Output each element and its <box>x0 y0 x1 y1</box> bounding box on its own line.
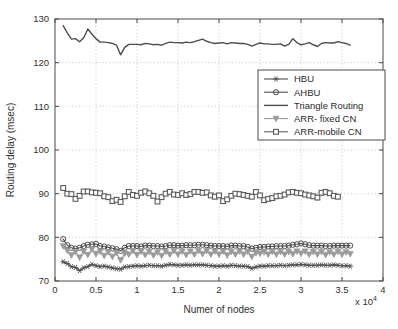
x-axis-multiplier-base: x 10 <box>355 296 373 307</box>
y-tick-label: 130 <box>33 13 49 24</box>
legend-label: HBU <box>294 73 314 84</box>
x-tick-label: 0.5 <box>89 284 102 295</box>
marker-square <box>274 129 279 134</box>
marker-square <box>249 194 254 199</box>
square-marker <box>151 193 156 198</box>
y-tick-label: 70 <box>38 275 49 286</box>
x-tick-label: 3.5 <box>335 284 348 295</box>
square-marker <box>69 192 74 197</box>
y-tick-label: 90 <box>38 188 49 199</box>
x-tick-label: 1.5 <box>171 284 184 295</box>
x-tick-label: 3 <box>298 284 303 295</box>
chart-background <box>0 0 398 329</box>
square-marker <box>274 129 279 134</box>
marker-square <box>217 193 222 198</box>
legend-label: ARR-mobile CN <box>294 126 362 137</box>
y-axis-title: Routing delay (msec) <box>5 103 16 197</box>
square-marker <box>118 200 123 205</box>
square-marker <box>217 193 222 198</box>
legend-label: ARR- fixed CN <box>294 113 356 124</box>
x-tick-label: 0 <box>52 284 57 295</box>
square-marker <box>258 193 263 198</box>
y-tick-label: 80 <box>38 232 49 243</box>
legend[interactable]: HBUAHBUTriangle RoutingARR- fixed CNARR-… <box>258 70 385 140</box>
marker-square <box>315 195 320 200</box>
y-tick-label: 110 <box>34 101 49 112</box>
x-tick-label: 2 <box>216 284 221 295</box>
marker-square <box>336 194 341 199</box>
square-marker <box>336 194 341 199</box>
square-marker <box>249 194 254 199</box>
legend-label: Triangle Routing <box>294 100 363 111</box>
square-marker <box>61 186 66 191</box>
y-tick-label: 120 <box>33 57 49 68</box>
x-tick-label: 1 <box>134 284 139 295</box>
square-marker <box>315 195 320 200</box>
marker-square <box>61 186 66 191</box>
marker-square <box>69 192 74 197</box>
y-tick-label: 100 <box>33 144 49 155</box>
figure-container: 00.511.522.533.54708090100110120130 Nume… <box>0 0 398 329</box>
x-tick-label: 4 <box>380 284 385 295</box>
x-axis-multiplier-exponent: 4 <box>373 295 377 302</box>
marker-square <box>258 193 263 198</box>
x-tick-label: 2.5 <box>253 284 266 295</box>
legend-label: AHBU <box>294 87 321 98</box>
marker-square <box>151 193 156 198</box>
routing-delay-chart: 00.511.522.533.54708090100110120130 Nume… <box>0 0 398 329</box>
x-axis-title: Numer of nodes <box>183 304 254 315</box>
marker-square <box>118 200 123 205</box>
